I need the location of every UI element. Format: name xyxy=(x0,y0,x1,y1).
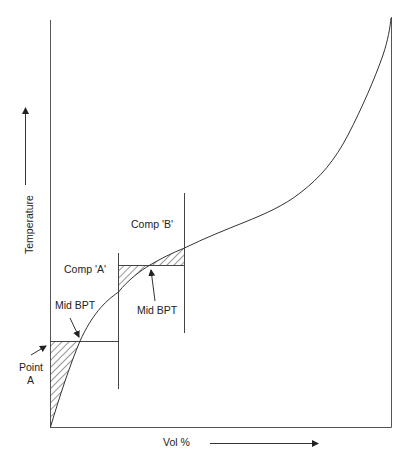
hatch-comp-a-upper xyxy=(119,265,151,292)
point-a-label-line1: Point xyxy=(19,361,43,373)
hatch-point-a xyxy=(51,341,81,427)
point-a-label-line2: A xyxy=(27,374,34,386)
y-axis-label: Temperature xyxy=(23,195,35,254)
x-axis-label: Vol % xyxy=(163,436,190,448)
mid-bpt-a-arrow-icon xyxy=(70,318,79,337)
comp-a-label: Comp 'A' xyxy=(64,263,106,275)
x-axis-label-group: Vol % xyxy=(163,436,318,448)
mid-bpt-b-arrow-icon xyxy=(151,270,155,301)
mid-bpt-a-label: Mid BPT xyxy=(55,299,96,311)
y-axis-label-group: Temperature xyxy=(23,108,35,254)
plot-frame xyxy=(50,17,392,428)
comp-b-label: Comp 'B' xyxy=(131,218,173,230)
distillation-curve-diagram: Temperature Vol % Comp 'A' Comp 'B' Mid … xyxy=(0,0,409,468)
point-a-arrow-icon xyxy=(31,346,46,355)
distillation-curve xyxy=(51,18,392,427)
mid-bpt-b-label: Mid BPT xyxy=(137,304,178,316)
